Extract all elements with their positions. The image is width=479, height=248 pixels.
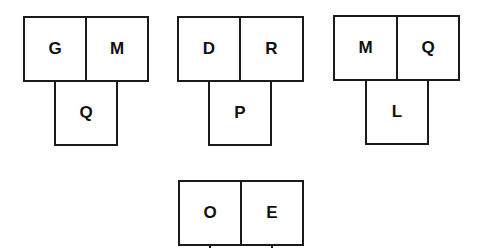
letter: R <box>265 39 277 59</box>
figure-1-top-right-box: M <box>85 16 149 82</box>
letter: Q <box>79 103 92 123</box>
figure-2-bottom-box: P <box>208 80 272 146</box>
figure-2-top-left-box: D <box>177 16 241 82</box>
letter: Q <box>421 38 434 58</box>
letter: E <box>266 203 277 223</box>
figure-3-bottom-box: L <box>365 79 429 145</box>
figure-1-top-left-box: G <box>23 16 87 82</box>
figure-3-top-right-box: Q <box>396 15 460 81</box>
figure-4-bottom-box <box>209 244 273 248</box>
figure-3-top-left-box: M <box>333 15 398 81</box>
letter: L <box>392 102 402 122</box>
letter: G <box>48 39 61 59</box>
figure-4-top-left-box: O <box>178 180 242 246</box>
letter: M <box>110 39 124 59</box>
letter: D <box>203 39 215 59</box>
figure-4-top-right-box: E <box>240 180 304 246</box>
letter: P <box>234 103 245 123</box>
letter: M <box>358 38 372 58</box>
letter: O <box>203 203 216 223</box>
figure-1-bottom-box: Q <box>54 80 118 146</box>
figure-2-top-right-box: R <box>239 16 304 82</box>
